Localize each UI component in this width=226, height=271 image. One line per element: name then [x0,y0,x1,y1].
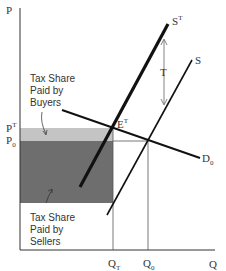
pt-label: PT [6,121,16,134]
buyers-annotation: Tax Share Paid by Buyers [30,73,75,109]
supply-curve-st [80,24,168,187]
x-axis-label: Q [209,258,217,270]
p0-label: P0 [6,134,16,149]
d0-curve-label: D0 [202,152,213,167]
et-label: ET [117,117,128,130]
tax-label: T [160,66,167,78]
supply-curve-s [107,60,192,215]
y-axis-label: P [6,4,12,16]
buyers-tax-share-area [20,128,113,141]
sellers-annotation: Tax Share Paid by Sellers [30,212,75,248]
st-curve-label: ST [172,14,182,27]
s-curve-label: S [195,54,201,66]
qt-label: QT [108,257,120,271]
q0-label: Q0 [143,257,154,271]
